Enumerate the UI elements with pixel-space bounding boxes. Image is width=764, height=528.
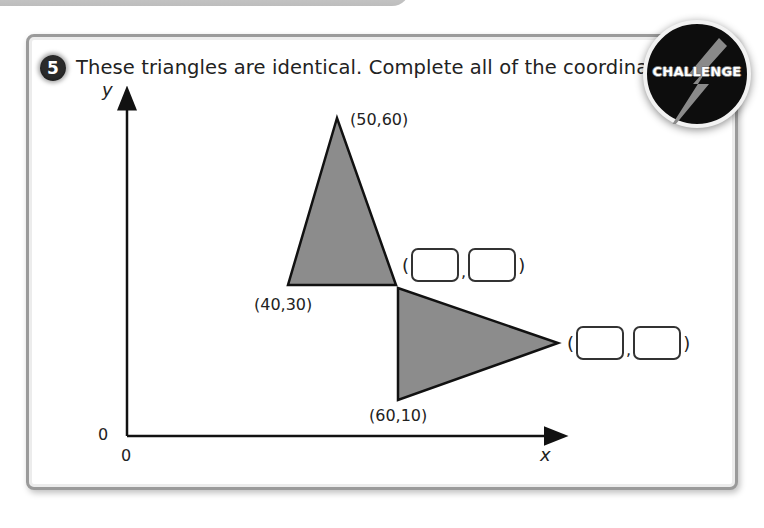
close-paren: ) <box>518 255 525 276</box>
open-paren: ( <box>402 255 409 276</box>
answer-2-y-input[interactable] <box>633 326 681 360</box>
comma: , <box>626 340 631 359</box>
answer-coordinate-1: ( , ) <box>400 248 527 282</box>
x-origin-label: 0 <box>121 446 131 465</box>
answer-1-y-input[interactable] <box>468 248 516 282</box>
coordinate-graph <box>0 0 764 528</box>
triangle-b <box>398 288 558 400</box>
triangle-a <box>288 118 396 285</box>
open-paren: ( <box>567 333 574 354</box>
point-label-apex: (50,60) <box>350 110 408 129</box>
answer-coordinate-2: ( , ) <box>565 326 692 360</box>
comma: , <box>461 262 466 281</box>
answer-1-x-input[interactable] <box>411 248 459 282</box>
y-origin-label: 0 <box>98 425 108 444</box>
point-label-bottom: (60,10) <box>369 406 427 425</box>
point-label-left-base: (40,30) <box>254 295 312 314</box>
close-paren: ) <box>683 333 690 354</box>
x-axis-label: x <box>540 444 551 465</box>
y-axis-label: y <box>102 79 113 100</box>
answer-2-x-input[interactable] <box>576 326 624 360</box>
